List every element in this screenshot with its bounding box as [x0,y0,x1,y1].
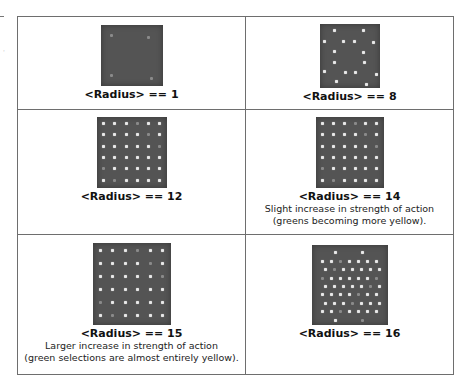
spot [111,301,114,304]
spot [332,145,335,148]
spot [161,288,164,291]
spot [343,133,346,136]
caption-line: Larger increase in strength of action [45,340,218,352]
spot [339,260,342,263]
cell-radius-8: <Radius> == 8 [246,17,454,110]
cell-radius-1: <Radius> == 1 [18,17,246,110]
spot [102,145,105,148]
comparison-table: <Radius> == 1 <Radius> == 8 <Radius> == … [17,16,454,375]
spot [102,133,105,136]
spot [125,145,128,148]
spot [365,83,368,86]
spot [125,179,128,182]
spot [136,133,139,136]
spot [136,288,139,291]
spot [375,260,378,263]
spot [366,310,369,313]
spot [333,268,336,271]
spot [136,301,139,304]
spot [158,122,161,125]
spot [147,145,150,148]
spot [99,275,102,278]
spot [125,167,128,170]
spot [332,167,335,170]
spot [147,156,150,159]
spot [372,41,375,44]
spot [364,156,367,159]
spot [149,262,152,265]
microscopy-thumbnail-radius-16 [312,245,388,325]
spot [375,145,378,148]
spot [332,179,335,182]
spot [136,275,139,278]
spot [378,302,381,305]
spot [149,301,152,304]
spot [147,122,150,125]
spot [334,251,337,254]
spot [351,285,354,288]
spot [330,260,333,263]
spot [332,133,335,136]
spot [125,133,128,136]
spot [354,133,357,136]
spot [323,40,326,43]
spot [113,156,116,159]
spot [111,249,114,252]
spot [375,293,378,296]
caption-line: Slight increase in strength of action [265,203,434,215]
spot [158,133,161,136]
spot [323,70,326,73]
spot [333,285,336,288]
spot [375,73,378,76]
spot [339,277,342,280]
spot [362,51,365,54]
spot [161,262,164,265]
spot [147,179,150,182]
spot [339,293,342,296]
radius-label: <Radius> == 8 [302,90,396,103]
spot [136,145,139,148]
microscopy-thumbnail-radius-12 [97,117,167,188]
spot [364,133,367,136]
spot [321,145,324,148]
spot [102,156,105,159]
spot [378,268,381,271]
spot [321,260,324,263]
spot [158,179,161,182]
spot [361,251,364,254]
spot [330,277,333,280]
spot [362,29,365,32]
spot [321,277,324,280]
radius-label: <Radius> == 12 [81,190,183,203]
spot [330,310,333,313]
spot [113,167,116,170]
spot [343,179,346,182]
spot [111,262,114,265]
spot [357,260,360,263]
spot [136,156,139,159]
spot [113,179,116,182]
spot [150,77,153,80]
spot [158,145,161,148]
spot [149,314,152,317]
spot [321,179,324,182]
spot [125,156,128,159]
spot [321,133,324,136]
spot [124,275,127,278]
spot [332,156,335,159]
spot [113,122,116,125]
spot [369,302,372,305]
spot [366,277,369,280]
spot [351,302,354,305]
spot [149,275,152,278]
spot [124,301,127,304]
spot [158,167,161,170]
spot [113,145,116,148]
spot [149,288,152,291]
spot [348,277,351,280]
spot [364,179,367,182]
spot [102,122,105,125]
spot [99,314,102,317]
spot [348,260,351,263]
spot [324,302,327,305]
